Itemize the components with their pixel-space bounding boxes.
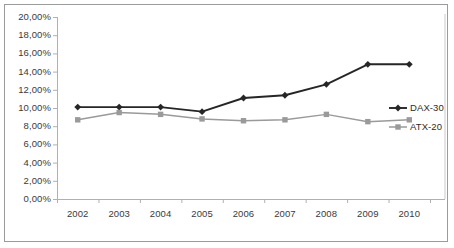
data-point-marker	[199, 116, 204, 121]
y-axis-tick-label: 14,00%	[5, 66, 51, 77]
legend-label-atx-20: ATX-20	[410, 121, 442, 132]
data-point-marker	[116, 104, 123, 111]
x-axis-tick-label: 2009	[347, 208, 389, 219]
y-axis-tick-label: 10,00%	[5, 102, 51, 113]
x-axis-tick-label: 2004	[140, 208, 182, 219]
data-point-marker	[282, 117, 287, 122]
x-axis-tick-label: 2003	[98, 208, 140, 219]
y-axis-tick-label: 20,00%	[5, 11, 51, 22]
y-axis-tick-label: 18,00%	[5, 29, 51, 40]
data-point-marker	[364, 61, 371, 68]
data-point-marker	[241, 118, 246, 123]
series-line-dax-30	[78, 64, 410, 111]
data-point-marker	[157, 104, 164, 111]
y-axis-tick-label: 12,00%	[5, 84, 51, 95]
x-axis-tick-label: 2007	[264, 208, 306, 219]
y-axis-tick-label: 0,00%	[5, 193, 51, 204]
data-point-marker	[365, 119, 370, 124]
data-point-marker	[75, 117, 80, 122]
data-point-marker	[240, 95, 247, 102]
data-point-marker	[395, 124, 400, 129]
data-point-marker	[282, 92, 289, 99]
x-axis-tick-label: 2010	[388, 208, 430, 219]
data-point-marker	[395, 105, 402, 112]
x-axis-tick-label: 2005	[181, 208, 223, 219]
y-axis-tick-label: 16,00%	[5, 47, 51, 58]
data-point-marker	[324, 112, 329, 117]
x-axis-tick-label: 2002	[57, 208, 99, 219]
data-point-marker	[116, 110, 121, 115]
y-axis-tick-label: 2,00%	[5, 175, 51, 186]
x-axis-tick-label: 2006	[223, 208, 265, 219]
y-axis-tick-label: 4,00%	[5, 157, 51, 168]
y-axis-tick-label: 6,00%	[5, 138, 51, 149]
chart-series	[74, 61, 412, 124]
x-axis-tick-label: 2008	[305, 208, 347, 219]
data-point-marker	[199, 108, 206, 115]
data-point-marker	[74, 104, 81, 111]
chart-legend	[389, 105, 407, 130]
legend-label-dax-30: DAX-30	[410, 102, 444, 113]
chart-axes	[53, 14, 445, 203]
data-point-marker	[323, 81, 330, 88]
y-axis-tick-label: 8,00%	[5, 120, 51, 131]
data-point-marker	[158, 112, 163, 117]
data-point-marker	[406, 61, 413, 68]
